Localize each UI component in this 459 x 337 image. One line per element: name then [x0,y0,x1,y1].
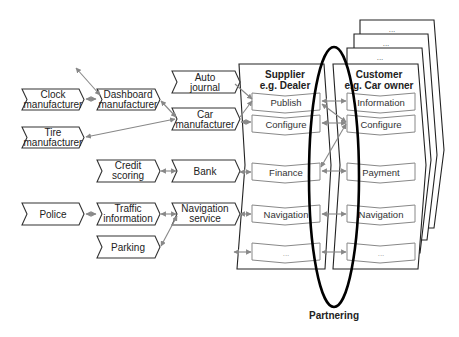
svg-text:...: ... [283,249,290,258]
chevron-dashboard-manufacturer[interactable]: Dashboard manufacturer [97,89,160,110]
chevron-auto-journal[interactable]: Auto journal [172,71,240,93]
customer-subtitle: e.g. Car owner [345,80,414,91]
svg-text:Parking: Parking [111,242,145,253]
stack-page-1-label: ... [377,53,384,62]
svg-text:Configure: Configure [360,119,401,130]
chevron-parking[interactable]: Parking [97,236,160,258]
svg-text:Navigation: Navigation [359,209,404,220]
svg-text:information: information [103,213,152,224]
chevron-bank[interactable]: Bank [172,160,240,182]
chevron-navigation-service[interactable]: Navigation service [172,203,240,225]
chevron-car-manufacturer[interactable]: Car manufacturer [172,108,240,130]
svg-text:manufacturer: manufacturer [176,119,236,130]
partnering-label: Partnering [309,310,359,321]
process-more-supplier[interactable]: ... [252,243,320,263]
customer-title: Customer [356,69,403,80]
svg-text:manufacturer: manufacturer [24,137,84,148]
partner-chevrons: Clock manufacturer Tire manufacturer Das… [22,71,240,258]
svg-text:...: ... [378,249,385,258]
link-tire-car [86,119,175,137]
svg-text:Publish: Publish [270,97,301,108]
svg-text:Payment: Payment [362,167,400,178]
stack-page-2-label: ... [383,39,390,48]
svg-text:journal: journal [189,82,220,93]
svg-text:service: service [189,213,221,224]
svg-text:manufacturer: manufacturer [24,99,84,110]
svg-text:Police: Police [39,209,67,220]
chevron-police[interactable]: Police [22,203,84,225]
svg-text:Configure: Configure [265,119,306,130]
process-more-customer[interactable]: ... [347,243,415,263]
svg-text:Finance: Finance [269,167,303,178]
stack-page-3-label: ... [389,25,396,34]
process-payment[interactable]: Payment [347,163,415,183]
svg-text:manufacturer: manufacturer [99,99,159,110]
link-parking-navservice [161,216,177,246]
supplier-subtitle: e.g. Dealer [260,80,311,91]
svg-text:Navigation: Navigation [264,209,309,220]
chevron-traffic-information[interactable]: Traffic information [97,203,160,225]
process-information[interactable]: Information [347,93,415,113]
process-publish[interactable]: Publish [252,93,320,113]
chevron-credit-scoring[interactable]: Credit scoring [97,160,160,182]
supplier-title: Supplier [265,69,305,80]
chevron-clock-manufacturer[interactable]: Clock manufacturer [22,89,84,110]
svg-text:Bank: Bank [194,166,218,177]
value-network-diagram: ... ... ... Customer e.g. Car owner Supp… [0,0,459,337]
chevron-tire-manufacturer[interactable]: Tire manufacturer [22,127,84,148]
svg-text:scoring: scoring [112,170,144,181]
svg-text:Information: Information [357,97,405,108]
